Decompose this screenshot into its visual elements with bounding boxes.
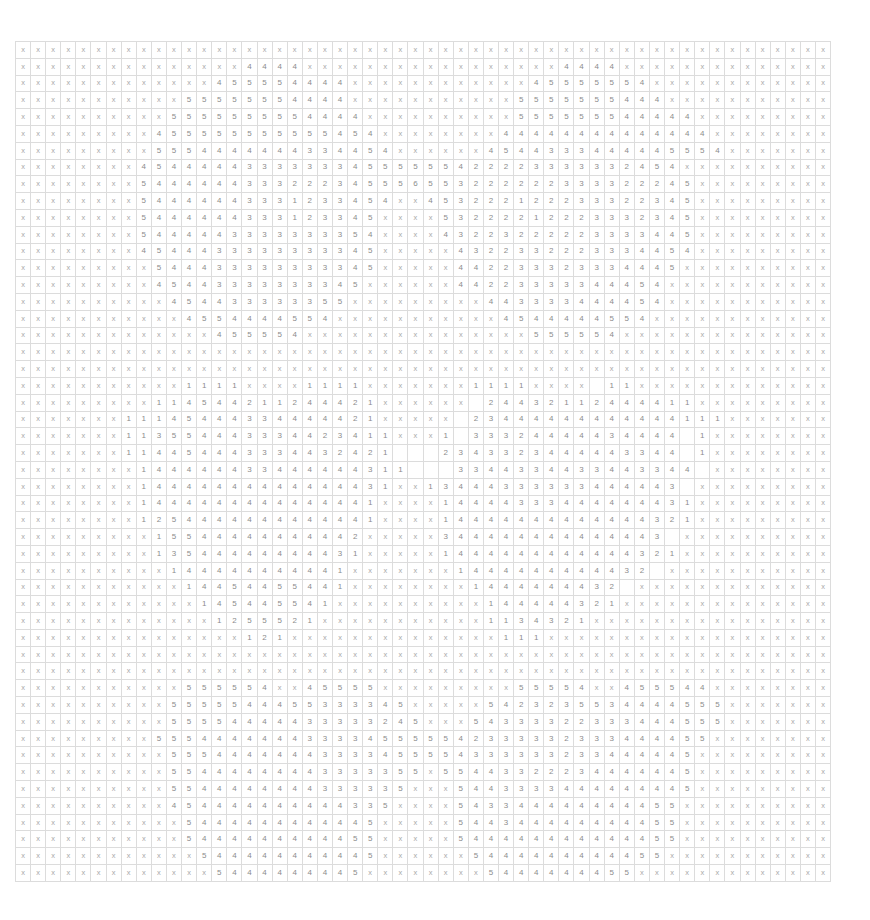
grid-cell: x (634, 344, 649, 361)
grid-cell: 3 (544, 613, 559, 630)
grid-cell: x (363, 310, 378, 327)
grid-cell: 5 (227, 92, 242, 109)
grid-cell: x (16, 697, 31, 714)
grid-cell: 4 (544, 848, 559, 865)
grid-cell: 1 (665, 394, 680, 411)
grid-cell: x (423, 394, 438, 411)
grid-cell: x (423, 310, 438, 327)
grid-cell: 4 (649, 277, 664, 294)
grid-cell: x (680, 327, 695, 344)
grid-cell: 4 (212, 293, 227, 310)
grid-cell: x (408, 394, 423, 411)
grid-cell: x (423, 629, 438, 646)
grid-cell: x (393, 680, 408, 697)
grid-cell: 4 (483, 545, 498, 562)
grid-cell: x (785, 781, 800, 798)
grid-row: xxxxxxxx5444443333333354xxxx432232222233… (16, 226, 831, 243)
grid-cell: x (393, 75, 408, 92)
grid-cell: x (710, 428, 725, 445)
grid-cell: x (755, 831, 770, 848)
grid-cell: 4 (589, 428, 604, 445)
grid-cell: x (408, 361, 423, 378)
grid-cell: 4 (514, 596, 529, 613)
grid-cell: x (770, 394, 785, 411)
grid-cell: 3 (604, 176, 619, 193)
grid-cell: 4 (287, 545, 302, 562)
grid-cell: 3 (317, 764, 332, 781)
grid-cell: x (755, 797, 770, 814)
grid-cell: 5 (604, 92, 619, 109)
grid-cell: x (740, 209, 755, 226)
grid-cell: x (453, 109, 468, 126)
grid-cell: 4 (332, 814, 347, 831)
grid-cell: 4 (197, 243, 212, 260)
grid-cell: 5 (378, 730, 393, 747)
grid-cell: 4 (332, 142, 347, 159)
grid-cell: x (423, 697, 438, 714)
grid-cell: 5 (348, 125, 363, 142)
grid-cell: 2 (529, 226, 544, 243)
grid-cell: x (725, 159, 740, 176)
grid-cell: x (408, 344, 423, 361)
grid-cell: 4 (212, 478, 227, 495)
grid-cell: 4 (468, 764, 483, 781)
grid-cell: x (91, 293, 106, 310)
grid-cell: x (408, 209, 423, 226)
grid-cell: 4 (483, 579, 498, 596)
grid-cell: 2 (499, 209, 514, 226)
grid-cell: x (695, 529, 710, 546)
grid-cell: x (483, 58, 498, 75)
grid-cell: 4 (665, 226, 680, 243)
grid-cell: 4 (649, 411, 664, 428)
grid-cell: x (649, 58, 664, 75)
grid-cell: x (332, 327, 347, 344)
grid-cell: 4 (604, 293, 619, 310)
grid-cell: x (423, 75, 438, 92)
grid-cell: x (91, 428, 106, 445)
grid-cell: 3 (317, 209, 332, 226)
grid-cell: x (106, 344, 121, 361)
grid-cell: x (16, 42, 31, 59)
grid-cell: x (499, 92, 514, 109)
grid-cell: x (438, 109, 453, 126)
grid-cell: 1 (695, 445, 710, 462)
grid-cell: x (589, 629, 604, 646)
grid-row: xxxxxxxx54444443332223455565532222223333… (16, 176, 831, 193)
grid-cell: 2 (348, 394, 363, 411)
grid-cell: x (800, 697, 815, 714)
grid-cell: x (468, 680, 483, 697)
grid-cell: 5 (136, 193, 151, 210)
grid-cell: x (16, 159, 31, 176)
grid-cell: x (815, 293, 830, 310)
grid-cell: 1 (363, 495, 378, 512)
grid-cell: 3 (649, 209, 664, 226)
grid-cell: 5 (695, 730, 710, 747)
grid-cell: x (348, 663, 363, 680)
grid-cell: 4 (166, 209, 181, 226)
grid-cell: x (815, 545, 830, 562)
grid-cell: x (800, 831, 815, 848)
grid-cell: x (815, 445, 830, 462)
grid-cell: x (740, 713, 755, 730)
grid-cell: x (91, 142, 106, 159)
grid-cell: 5 (468, 713, 483, 730)
grid-cell: x (453, 680, 468, 697)
grid-cell: 2 (559, 243, 574, 260)
grid-cell: x (46, 545, 61, 562)
grid-cell: x (408, 562, 423, 579)
grid-cell: x (514, 663, 529, 680)
grid-cell: x (31, 730, 46, 747)
grid-cell: 4 (589, 831, 604, 848)
grid-cell: x (91, 713, 106, 730)
grid-cell: 4 (604, 529, 619, 546)
grid-cell: 5 (287, 310, 302, 327)
grid-cell: 4 (212, 394, 227, 411)
grid-cell: x (136, 109, 151, 126)
grid-cell: 4 (332, 92, 347, 109)
grid-cell: x (16, 613, 31, 630)
grid-cell: 3 (499, 814, 514, 831)
grid-cell: 4 (287, 797, 302, 814)
grid-cell: x (740, 764, 755, 781)
grid-cell: 4 (197, 529, 212, 546)
grid-cell: x (332, 42, 347, 59)
